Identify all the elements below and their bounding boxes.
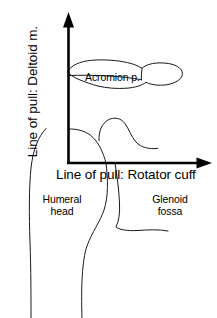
humeral-head-medial-border xyxy=(82,163,108,318)
anatomical-diagram-figure: Line of pull: Deltoid m. Line of pull: R… xyxy=(0,0,217,318)
humeral-head-label-line2: head xyxy=(51,205,74,217)
glenoid-fossa-label-line1: Glenoid xyxy=(152,193,188,205)
x-axis-label: Line of pull: Rotator cuff xyxy=(56,167,196,182)
anatomy-outline-group xyxy=(29,60,182,318)
glenoid-fossa-label: Glenoid fossa xyxy=(137,194,203,218)
y-axis-label: Line of pull: Deltoid m. xyxy=(25,12,40,172)
glenoid-fossa-label-line2: fossa xyxy=(158,205,183,217)
humeral-head-dome-outline xyxy=(68,129,106,163)
y-axis-arrow-head-icon xyxy=(63,12,74,28)
x-axis-arrow-head-icon xyxy=(197,158,213,169)
supraglenoid-hook-outline xyxy=(99,118,158,148)
humeral-head-label-line1: Humeral xyxy=(43,193,82,205)
humeral-head-label: Humeral head xyxy=(26,194,98,218)
axis-group xyxy=(63,12,212,169)
acromion-notch-line xyxy=(141,69,142,80)
acromion-process-label: Acromion p. xyxy=(85,72,140,84)
